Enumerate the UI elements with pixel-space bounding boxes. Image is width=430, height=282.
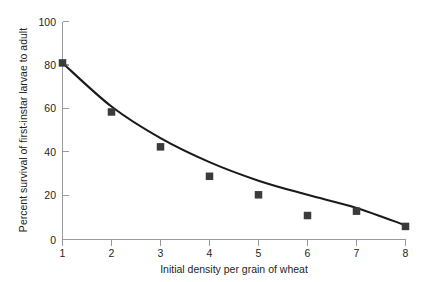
data-point (108, 108, 116, 116)
x-tick-label-1: 1 (60, 247, 66, 259)
y-tick-label-60: 60 (44, 102, 56, 114)
data-point (206, 173, 214, 181)
x-axis-title: Initial density per grain of wheat (160, 263, 308, 275)
y-tick-label-80: 80 (44, 59, 56, 71)
x-tick-label-6: 6 (305, 247, 311, 259)
data-point (353, 207, 361, 215)
data-point (59, 59, 67, 67)
data-point (157, 143, 165, 151)
y-tick-label-20: 20 (44, 189, 56, 201)
x-tick-label-2: 2 (109, 247, 115, 259)
y-tick-label-40: 40 (44, 146, 56, 158)
x-tick-label-8: 8 (403, 247, 409, 259)
y-tick-label-100: 100 (38, 16, 56, 28)
x-tick-label-3: 3 (158, 247, 164, 259)
y-axis-title: Percent survival of first-instar larvae … (17, 28, 29, 232)
data-point (304, 212, 312, 220)
data-point (402, 223, 410, 231)
chart-figure: 100 80 60 40 20 0 1 2 3 4 5 6 7 8 Initia… (0, 0, 430, 282)
x-tick-label-7: 7 (354, 247, 360, 259)
x-tick-label-4: 4 (207, 247, 213, 259)
data-point (255, 191, 263, 199)
scatter-plot: 100 80 60 40 20 0 1 2 3 4 5 6 7 8 Initia… (0, 0, 430, 282)
y-tick-label-0: 0 (50, 234, 56, 246)
x-tick-label-5: 5 (256, 247, 262, 259)
